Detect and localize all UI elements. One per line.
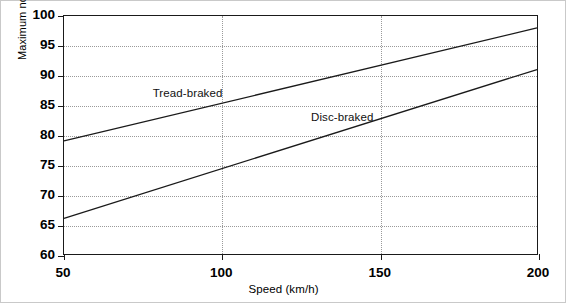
x-axis-tick bbox=[64, 254, 65, 260]
y-axis-tick-label: 70 bbox=[5, 188, 55, 202]
x-axis-tick-label: 150 bbox=[350, 266, 410, 280]
noise-speed-line-chart: Maximum noise level (dBA) 60657075808590… bbox=[0, 0, 567, 304]
y-axis-tick-label: 60 bbox=[5, 248, 55, 262]
series-label-disc-braked: Disc-braked bbox=[311, 111, 373, 123]
x-axis-title: Speed (km/h) bbox=[0, 283, 567, 295]
series-label-tread-braked: Tread-braked bbox=[153, 87, 223, 99]
x-axis-tick bbox=[222, 254, 223, 260]
y-axis-tick-label: 75 bbox=[5, 158, 55, 172]
series-line bbox=[64, 28, 537, 141]
y-axis-tick-label: 100 bbox=[5, 8, 55, 22]
y-axis-tick-label: 65 bbox=[5, 218, 55, 232]
x-axis-tick-label: 50 bbox=[33, 266, 93, 280]
x-axis-tick bbox=[539, 254, 540, 260]
x-axis-tick-label: 200 bbox=[508, 266, 567, 280]
y-axis-tick-label: 80 bbox=[5, 128, 55, 142]
x-axis-tick bbox=[381, 254, 382, 260]
y-axis-tick-label: 95 bbox=[5, 38, 55, 52]
y-axis-tick-label: 85 bbox=[5, 98, 55, 112]
plot-area: Tread-brakedDisc-braked bbox=[63, 15, 538, 255]
series-lines bbox=[64, 16, 537, 254]
series-line bbox=[64, 70, 537, 219]
x-axis-tick-label: 100 bbox=[191, 266, 251, 280]
y-axis-tick-label: 90 bbox=[5, 68, 55, 82]
